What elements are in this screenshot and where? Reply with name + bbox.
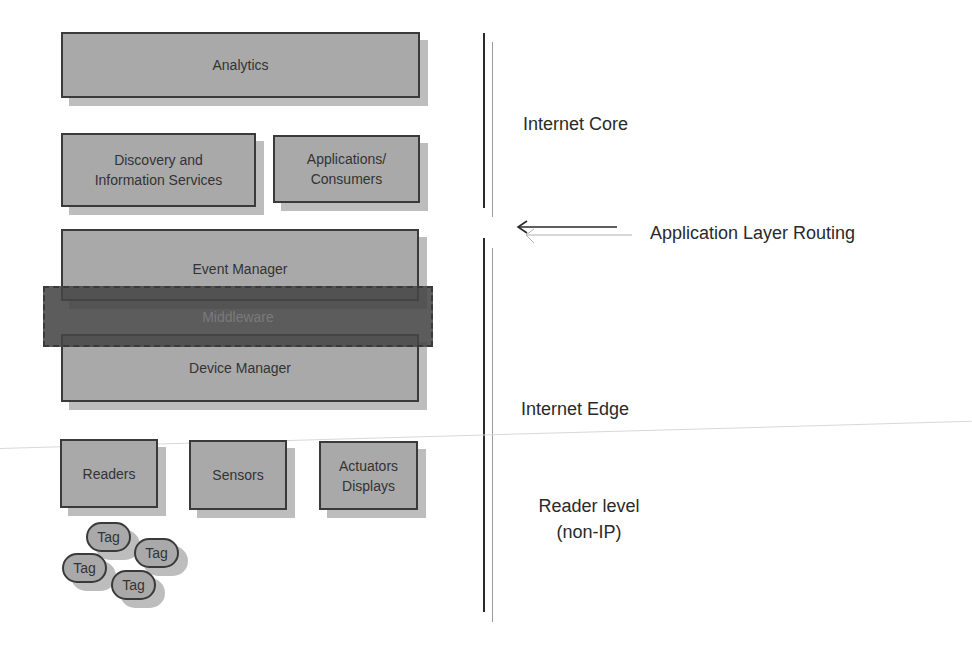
discovery-services-box: Discovery and Information Services — [61, 133, 256, 207]
applications-consumers-label: Applications/ Consumers — [307, 149, 386, 189]
edge-divider-line — [483, 238, 485, 612]
left-arrow-icon — [512, 218, 632, 246]
rfid-tag: Tag — [111, 570, 156, 600]
applications-consumers-box: Applications/ Consumers — [273, 135, 420, 203]
core-divider-shadow-line — [492, 42, 493, 217]
rfid-tag: Tag — [86, 522, 131, 552]
middleware-label: Middleware — [202, 309, 274, 325]
actuators-displays-label: Actuators Displays — [339, 456, 398, 496]
device-manager-label: Device Manager — [189, 358, 291, 378]
analytics-box: Analytics — [61, 32, 420, 98]
actuators-displays-box: Actuators Displays — [319, 441, 418, 510]
internet-core-label: Internet Core — [523, 111, 628, 137]
sensors-label: Sensors — [212, 465, 263, 485]
analytics-label: Analytics — [212, 55, 268, 75]
reader-level-label: Reader level (non-IP) — [521, 493, 657, 545]
readers-label: Readers — [83, 464, 136, 484]
event-manager-label: Event Manager — [193, 259, 288, 279]
discovery-services-label: Discovery and Information Services — [95, 150, 223, 190]
rfid-tag: Tag — [134, 538, 179, 568]
readers-box: Readers — [60, 439, 158, 508]
sensors-box: Sensors — [189, 440, 287, 510]
internet-edge-label: Internet Edge — [521, 396, 629, 422]
middleware-band: Middleware — [43, 286, 433, 347]
core-divider-line — [483, 33, 485, 208]
application-layer-routing-label: Application Layer Routing — [650, 220, 855, 246]
rfid-tag: Tag — [62, 553, 107, 583]
